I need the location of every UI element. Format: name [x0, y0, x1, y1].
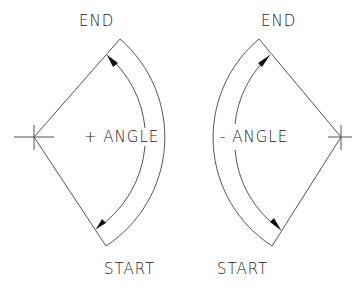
start-radius-line: [34, 137, 106, 246]
end-arrowhead-icon: [107, 55, 118, 67]
right-start-label: START: [217, 262, 268, 277]
start-radius-line: [272, 137, 341, 246]
end-radius-line: [259, 39, 341, 137]
angle-diagram: [0, 0, 364, 288]
end-radius-line: [34, 39, 120, 137]
start-arrowhead-icon: [270, 218, 281, 230]
inner-arc-upper: [235, 55, 270, 124]
left-end-label: END: [79, 14, 114, 29]
left-angle-label: + ANGLE: [84, 130, 159, 145]
right-end-label: END: [261, 14, 296, 29]
right-angle-label: - ANGLE: [220, 130, 288, 145]
start-arrowhead-icon: [96, 219, 106, 229]
inner-arc-lower: [235, 150, 281, 230]
left-start-label: START: [104, 262, 155, 277]
